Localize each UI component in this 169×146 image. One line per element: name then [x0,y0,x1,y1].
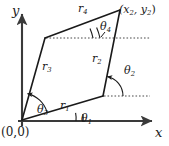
vector-label-r2: r2 [92,53,102,64]
theta4-base: θ [100,20,107,33]
vector-polygon-figure: y x (0,0) (x2, y2) r1 r2 r3 r4 θ1 θ2 θ3 … [0,0,169,146]
angle-label-theta4: θ4 [100,21,111,32]
theta3-base: θ [37,103,44,116]
theta1-base: θ [81,112,88,125]
origin-label: (0,0) [1,126,29,138]
theta2-sub: 2 [131,70,135,78]
x-axis-label: x [155,126,162,139]
angle-arc-theta2 [107,77,123,97]
angle-arc-theta1-outer [76,113,77,121]
y-axis-label: y [12,4,19,17]
r4-sub: 4 [83,8,87,16]
point-label: (x2, y2) [119,4,156,15]
point-label-sub2: 2 [147,9,151,17]
r1-sub: 1 [65,105,69,113]
theta3-sub: 3 [44,109,48,117]
angle-arc-theta4 [90,29,93,39]
r2-sub: 2 [97,58,101,66]
point-label-close: ) [151,3,155,16]
theta4-sub: 4 [107,26,111,34]
theta1-sub: 1 [88,118,92,126]
vector-label-r4: r4 [78,3,88,14]
point-label-sub1: 2 [130,9,134,17]
vector-label-r1: r1 [60,100,70,111]
angle-label-theta1: θ1 [81,113,92,124]
angle-label-theta3: θ3 [37,104,48,115]
theta2-base: θ [124,64,131,77]
r3-sub: 3 [47,66,51,74]
point-label-mid: , y [134,3,147,16]
angle-label-theta2: θ2 [124,65,135,76]
vector-label-r3: r3 [42,61,52,72]
point-label-open: (x [119,3,130,16]
